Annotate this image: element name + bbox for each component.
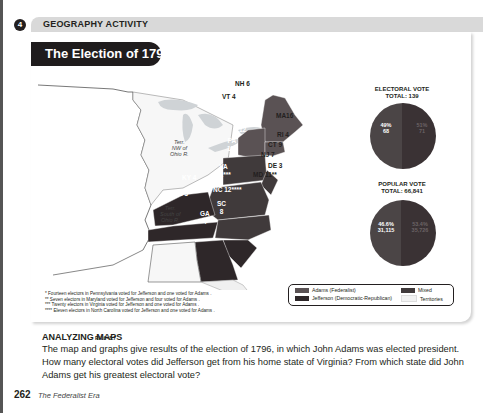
footnote: **** Eleven electors in North Carolina v… <box>45 308 215 314</box>
map-footnotes: * Fourteen electors in Pennsylvania vote… <box>45 291 215 313</box>
state-label-ri: RI 4 <box>277 131 289 138</box>
activity-number-badge: 4 <box>14 19 26 31</box>
state-label-ga: GA 4 <box>200 210 210 226</box>
state-label-nh: NH 6 <box>235 80 250 87</box>
legend-mixed: Mixed <box>401 287 432 293</box>
footnote: * Fourteen electors in Pennsylvania vote… <box>45 291 215 297</box>
map-title: The Election of 1796 <box>45 46 171 61</box>
state-label-va: VA 21*** <box>216 163 231 179</box>
state-label-ny: NY 12 <box>238 118 247 134</box>
state-label-pa: PA 15* <box>227 137 237 153</box>
state-label-md: MD 11** <box>253 171 277 178</box>
electoral-jefferson-label: 49%68 <box>374 122 398 134</box>
standard-code: RH.6–8.7 <box>95 335 116 341</box>
state-label-vt: VT 4 <box>222 93 236 100</box>
state-label-ct: CT 9 <box>268 141 282 148</box>
state-label-nj: NJ 7 <box>261 151 275 158</box>
state-label-tn: TN 3 <box>174 190 188 198</box>
state-label-ma: MA16 <box>276 112 293 119</box>
footnote: *** Twenty electors in Virginia voted fo… <box>45 302 215 308</box>
popular-vote-title: POPULAR VOTE TOTAL: 66,841 <box>362 181 442 195</box>
activity-label: GEOGRAPHY ACTIVITY <box>43 19 148 29</box>
electoral-vote-title: ELECTORAL VOTE TOTAL: 139 <box>362 86 442 100</box>
page-number: 262 <box>14 389 31 400</box>
popular-adams-label: 53.4%35,726 <box>406 221 434 233</box>
state-label-de: DE 3 <box>268 162 282 169</box>
electoral-vote-pie <box>370 103 436 169</box>
state-label-ky: KY 4 <box>182 174 196 182</box>
legend-adams: Adams (Federalist) <box>295 287 356 293</box>
popular-vote-pie <box>370 200 436 266</box>
legend-jefferson: Jefferson (Democratic-Republican) <box>295 295 392 301</box>
electoral-adams-label: 51%71 <box>410 122 434 134</box>
legend-territories: Territories <box>401 295 443 302</box>
state-label-nc: NC 12**** <box>213 186 242 194</box>
map-legend: Adams (Federalist) Jefferson (Democratic… <box>288 284 454 306</box>
page-edge <box>0 0 3 413</box>
territory-nw-label: Terr. NW of Ohio R. <box>170 139 189 157</box>
analyzing-maps-question: The map and graphs give results of the e… <box>42 343 474 382</box>
territory-south-label: Terr. South of Ohio R. <box>160 205 181 223</box>
popular-jefferson-label: 46.6%31,115 <box>372 221 400 233</box>
chapter-title: The Federalist Era <box>38 391 100 400</box>
state-label-sc: SC 8 <box>217 200 226 216</box>
